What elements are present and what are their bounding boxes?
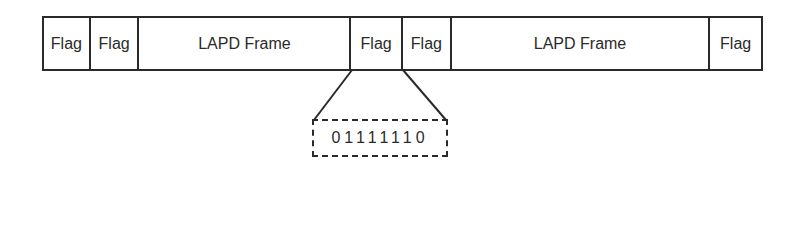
expansion-line-left <box>314 70 352 120</box>
flag-bit-pattern: 01111110 <box>312 119 448 157</box>
expansion-line-right <box>403 70 446 120</box>
